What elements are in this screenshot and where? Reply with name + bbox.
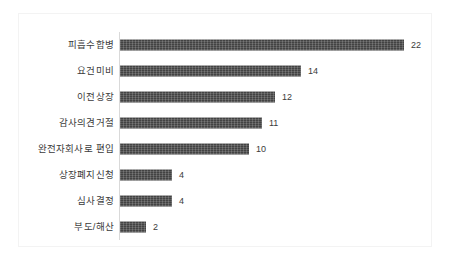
bar-row-list: 피흡수합병22요건미비14이전상장12감사의견거절11완전자회사로 편입10상장… <box>18 32 432 240</box>
bar-row: 완전자회사로 편입10 <box>18 136 432 162</box>
bar <box>120 170 172 181</box>
bar-and-value: 4 <box>120 170 184 181</box>
category-label: 이전상장 <box>77 92 114 102</box>
bar-value-label: 2 <box>153 223 158 232</box>
bar-row: 부도/해산2 <box>18 214 432 240</box>
category-label: 감사의견거절 <box>59 118 114 128</box>
bar-row: 이전상장12 <box>18 84 432 110</box>
bar-value-label: 11 <box>269 119 278 128</box>
bar-and-value: 4 <box>120 196 184 207</box>
bar-value-label: 10 <box>256 145 266 154</box>
bar-value-label: 12 <box>282 93 292 102</box>
bar <box>120 196 172 207</box>
bar <box>120 40 404 51</box>
bar <box>120 66 301 77</box>
bar <box>120 222 146 233</box>
category-label: 상장폐지신청 <box>59 170 114 180</box>
bar-and-value: 12 <box>120 92 292 103</box>
category-label: 부도/해산 <box>74 222 114 232</box>
bar-value-label: 4 <box>179 171 184 180</box>
bar-row: 요건미비14 <box>18 58 432 84</box>
bar-value-label: 14 <box>308 67 318 76</box>
bar <box>120 118 262 129</box>
bar-row: 감사의견거절11 <box>18 110 432 136</box>
bar <box>120 92 275 103</box>
bar-chart: 피흡수합병22요건미비14이전상장12감사의견거절11완전자회사로 편입10상장… <box>0 0 449 268</box>
bar-and-value: 22 <box>120 40 421 51</box>
category-label: 완전자회사로 편입 <box>38 144 114 154</box>
bar-and-value: 14 <box>120 66 318 77</box>
category-label: 심사결정 <box>77 196 114 206</box>
bar <box>120 144 249 155</box>
bar-value-label: 22 <box>411 41 421 50</box>
bar-value-label: 4 <box>179 197 184 206</box>
plot-area: 피흡수합병22요건미비14이전상장12감사의견거절11완전자회사로 편입10상장… <box>18 13 432 247</box>
bar-and-value: 2 <box>120 222 158 233</box>
bar-and-value: 10 <box>120 144 266 155</box>
bar-row: 피흡수합병22 <box>18 32 432 58</box>
bar-row: 심사결정4 <box>18 188 432 214</box>
category-label: 요건미비 <box>77 66 114 76</box>
bar-row: 상장폐지신청4 <box>18 162 432 188</box>
bar-and-value: 11 <box>120 118 278 129</box>
category-label: 피흡수합병 <box>68 40 114 50</box>
